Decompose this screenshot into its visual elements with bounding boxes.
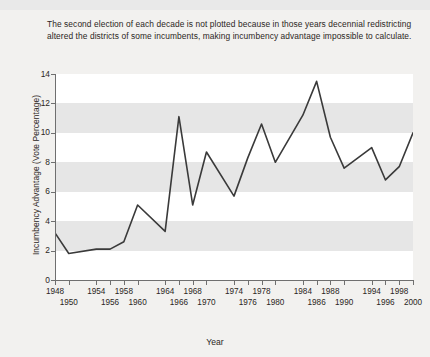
x-tick-mark	[248, 281, 249, 285]
incumbency-advantage-line-chart: 02468101214 1948195419581964196819741978…	[0, 10, 430, 357]
x-tick-mark	[69, 281, 70, 285]
cut-off-top-strip	[0, 0, 430, 10]
x-tick-label: 1970	[189, 298, 223, 307]
y-tick-mark	[51, 221, 55, 222]
page-sheet: The second election of each decade is no…	[0, 10, 430, 357]
x-tick-label: 1990	[327, 298, 361, 307]
x-tick-mark	[179, 281, 180, 285]
x-tick-mark	[96, 281, 97, 285]
x-tick-label: 1948	[38, 287, 72, 296]
x-axis-title: Year	[0, 337, 430, 347]
x-tick-mark	[55, 281, 56, 285]
x-tick-mark	[344, 281, 345, 285]
x-tick-mark	[372, 281, 373, 285]
x-tick-label: 1968	[176, 287, 210, 296]
x-tick-mark	[206, 281, 207, 285]
x-tick-mark	[262, 281, 263, 285]
x-tick-mark	[317, 281, 318, 285]
y-tick-mark	[51, 133, 55, 134]
x-tick-mark	[124, 281, 125, 285]
x-tick-mark	[138, 281, 139, 285]
x-tick-mark	[303, 281, 304, 285]
y-tick-mark	[51, 74, 55, 75]
x-tick-mark	[399, 281, 400, 285]
x-tick-mark	[165, 281, 166, 285]
y-axis-title: Incumbency Advantage (Vote Percentage)	[31, 55, 41, 295]
x-tick-mark	[385, 281, 386, 285]
data-line-incumbency-advantage	[55, 81, 413, 253]
plot-area	[55, 74, 413, 280]
x-tick-label: 1988	[313, 287, 347, 296]
x-tick-label: 1950	[52, 298, 86, 307]
y-tick-mark	[51, 103, 55, 104]
x-tick-label: 1978	[245, 287, 279, 296]
y-tick-mark	[51, 251, 55, 252]
x-tick-label: 1960	[121, 298, 155, 307]
x-tick-mark	[413, 281, 414, 285]
y-tick-mark	[51, 162, 55, 163]
x-tick-label: 1958	[107, 287, 141, 296]
y-tick-mark	[51, 192, 55, 193]
data-line-svg	[55, 74, 413, 280]
x-tick-mark	[275, 281, 276, 285]
x-tick-mark	[330, 281, 331, 285]
y-axis-line	[55, 74, 56, 281]
x-tick-mark	[234, 281, 235, 285]
x-tick-label: 2000	[396, 298, 430, 307]
x-tick-mark	[110, 281, 111, 285]
x-tick-label: 1980	[258, 298, 292, 307]
x-tick-mark	[193, 281, 194, 285]
x-tick-label: 1998	[382, 287, 416, 296]
